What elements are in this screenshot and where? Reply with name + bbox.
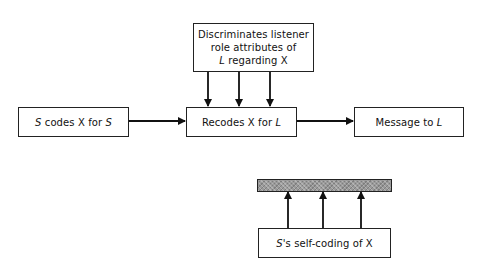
discriminates-box: Discriminates listener role attributes o…: [193, 23, 314, 72]
discriminates-line1: Discriminates listener: [198, 28, 309, 41]
recodes-box: Recodes X for L: [186, 107, 297, 137]
message-text: Message to: [376, 117, 437, 128]
discriminates-line3-text: regarding X: [225, 55, 288, 66]
message-label: Message to L: [376, 116, 443, 129]
recodes-label: Recodes X for L: [202, 116, 281, 129]
self-coding-text: 's self-coding of X: [283, 238, 373, 249]
self-coding-box: S's self-coding of X: [258, 228, 391, 258]
discriminates-line3: L regarding X: [219, 54, 287, 67]
s-codes-label: S codes X for S: [35, 116, 112, 129]
s-codes-text: codes X for: [42, 117, 106, 128]
listener-symbol: L: [275, 117, 281, 128]
s-codes-box: S codes X for S: [18, 107, 129, 137]
discriminates-line2: role attributes of: [211, 41, 297, 54]
message-box: Message to L: [354, 107, 464, 137]
speaker-symbol-2: S: [105, 117, 111, 128]
self-coding-label: S's self-coding of X: [276, 237, 373, 250]
hatched-bar: [257, 179, 392, 192]
listener-symbol: L: [437, 117, 443, 128]
recodes-text: Recodes X for: [202, 117, 276, 128]
